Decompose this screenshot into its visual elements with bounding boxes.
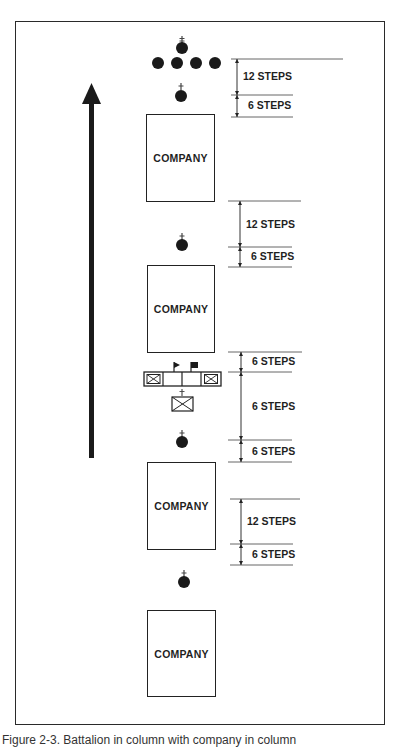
company-box-4: COMPANY <box>147 610 216 697</box>
interval-label: 6 STEPS <box>248 99 291 111</box>
flag-icon <box>191 362 198 372</box>
company-label: COMPANY <box>153 152 207 164</box>
company-commander-icon <box>176 430 188 448</box>
company-label: COMPANY <box>154 648 208 660</box>
staff-boxed-x-icon <box>172 389 193 411</box>
interval-label: 6 STEPS <box>252 355 295 367</box>
staff-row-icon <box>152 57 221 69</box>
interval-label: 6 STEPS <box>251 250 294 262</box>
headquarters-group <box>144 362 221 411</box>
company-label: COMPANY <box>154 500 208 512</box>
interval-label: 12 STEPS <box>243 70 292 82</box>
company-box-2: COMPANY <box>147 265 215 353</box>
interval-label: 6 STEPS <box>252 548 295 560</box>
company-commander-icon <box>176 233 188 251</box>
company-box-1: COMPANY <box>146 114 215 202</box>
interval-label: 6 STEPS <box>252 400 295 412</box>
company-commander-icon <box>178 570 190 588</box>
interval-label: 12 STEPS <box>246 218 295 230</box>
company-label: COMPANY <box>154 303 208 315</box>
flag-icon <box>174 362 180 372</box>
company-commander-icon <box>175 83 187 102</box>
figure-caption: Figure 2-3. Battalion in column with com… <box>2 733 296 747</box>
direction-arrow-icon <box>82 83 101 458</box>
company-box-3: COMPANY <box>147 462 216 550</box>
interval-label: 12 STEPS <box>247 515 296 527</box>
battalion-commander-icon <box>176 36 188 54</box>
interval-label: 6 STEPS <box>252 445 295 457</box>
